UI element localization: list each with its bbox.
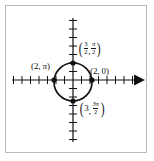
point-marker-top xyxy=(70,60,75,65)
label-close-paren-bottom: ) xyxy=(100,102,104,116)
label-open-paren-top: ( xyxy=(79,42,83,56)
label-theta-fraction-top: π 2 xyxy=(91,41,95,56)
label-theta-numerator-top: π xyxy=(91,41,95,48)
label-close-paren-top: ) xyxy=(97,42,101,56)
point-label-top: ( 3 2 , π 2 ) xyxy=(78,41,101,56)
point-marker-bottom xyxy=(70,98,75,103)
point-label-left: (2, π) xyxy=(31,62,50,71)
point-label-bottom: ( 3 , 3π 2 ) xyxy=(79,101,105,116)
label-theta-denominator-bottom: 2 xyxy=(93,108,97,116)
label-theta-fraction-bottom: 3π 2 xyxy=(92,101,100,116)
label-theta-numerator-bottom: 3π xyxy=(92,101,100,108)
point-marker-left xyxy=(51,77,56,82)
point-label-right: (2, 0) xyxy=(90,67,109,76)
x-axis-arrowhead xyxy=(134,75,145,86)
polar-graph-figure: ( 3 2 , π 2 ) (2, 0) (2, π) ( 3 , 3π 2 ) xyxy=(0,0,154,161)
point-marker-right xyxy=(89,77,94,82)
polar-plot-canvas xyxy=(0,0,154,161)
label-theta-denominator-top: 2 xyxy=(91,48,95,56)
label-open-paren-bottom: ( xyxy=(80,102,84,116)
